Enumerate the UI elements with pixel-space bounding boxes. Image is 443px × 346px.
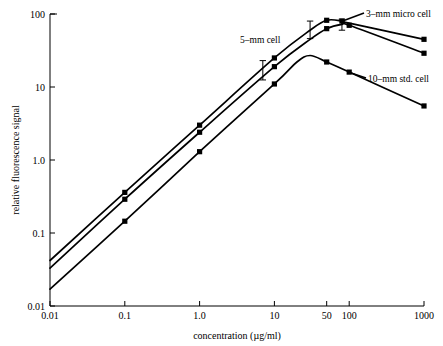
data-point-marker (324, 59, 329, 64)
curves-group (50, 20, 424, 289)
fluorescence-log-log-chart: 0.010.11.010501001000 0.010.11.010100 co… (0, 0, 443, 346)
x-tick-label-2: 1.0 (193, 310, 206, 321)
markers-group (122, 18, 426, 224)
x-tick-label-1: 0.1 (119, 310, 132, 321)
x-tick-label-0: 0.01 (41, 310, 59, 321)
data-point-marker (197, 123, 202, 128)
x-tick-label-3: 10 (269, 310, 279, 321)
error-bars-group (260, 19, 346, 80)
curve-5-mm-cell (50, 23, 424, 268)
data-point-marker (324, 18, 329, 23)
y-axis-label: relative fluorescence signal (10, 105, 21, 215)
data-point-marker (421, 51, 426, 56)
data-point-marker (122, 197, 127, 202)
axes-group (50, 14, 424, 306)
curve-3-mm-micro-cell (50, 20, 424, 261)
y-tick-label-0: 0.01 (28, 301, 46, 312)
y-tick-label-2: 1.0 (33, 155, 46, 166)
x-axis-label: concentration (µg/ml) (193, 330, 281, 342)
x-tick-label-6: 1000 (414, 310, 434, 321)
data-point-marker (122, 219, 127, 224)
y-tick-group: 0.010.11.010100 (28, 9, 56, 312)
x-tick-label-5: 100 (342, 310, 357, 321)
series-label-10mm-std-cell: 10–mm std. cell (368, 74, 429, 84)
x-tick-label-4: 50 (322, 310, 332, 321)
data-point-marker (197, 130, 202, 135)
data-point-marker (421, 103, 426, 108)
y-tick-label-1: 0.1 (33, 228, 46, 239)
data-point-marker (272, 64, 277, 69)
data-point-marker (272, 55, 277, 60)
data-point-marker (421, 37, 426, 42)
leader-10mm-std-cell (348, 72, 366, 78)
y-tick-label-4: 100 (30, 9, 45, 20)
data-point-marker (197, 149, 202, 154)
data-point-marker (347, 23, 352, 28)
data-point-marker (324, 26, 329, 31)
y-tick-label-3: 10 (35, 82, 45, 93)
chart-svg: 0.010.11.010501001000 0.010.11.010100 co… (0, 0, 443, 346)
series-label-5mm-cell: 5–mm cell (240, 35, 281, 45)
x-tick-group: 0.010.11.010501001000 (41, 301, 434, 321)
data-point-marker (272, 81, 277, 86)
series-label-3mm-micro-cell: 3–mm micro cell (366, 9, 431, 19)
data-point-marker (122, 190, 127, 195)
leader-3mm-micro-cell (340, 13, 364, 22)
